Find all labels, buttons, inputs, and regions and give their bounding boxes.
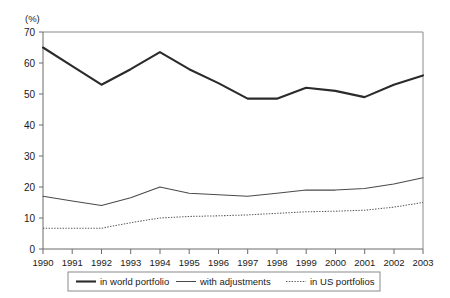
x-tick-label: 1990 (32, 257, 53, 268)
chart-container: (%) 70 60 50 40 30 20 10 0 1990 1991 (0, 0, 450, 298)
x-tick-label: 1992 (91, 257, 112, 268)
chart-legend: in world portfolio with adjustments in U… (68, 272, 380, 291)
x-tick-label: 1996 (208, 257, 229, 268)
x-tick-label: 1995 (179, 257, 200, 268)
y-tick-label: 20 (24, 182, 36, 193)
y-tick-label: 10 (24, 213, 36, 224)
y-axis-unit-label: (%) (25, 13, 40, 24)
x-tick-label: 1991 (62, 257, 83, 268)
x-tick-label: 1999 (296, 257, 317, 268)
y-tick-label: 70 (24, 27, 36, 38)
plot-frame (43, 32, 423, 249)
x-tick-label: 1997 (237, 257, 258, 268)
x-tick-label: 2003 (412, 257, 433, 268)
x-tick-label: 2000 (325, 257, 346, 268)
x-tick-label: 1993 (120, 257, 141, 268)
legend-label-with-adjustments: with adjustments (199, 276, 271, 287)
legend-label-in-world-portfolio: in world portfolio (100, 276, 169, 287)
line-chart: (%) 70 60 50 40 30 20 10 0 1990 1991 (0, 0, 450, 298)
legend-label-in-us-portfolios: in US portfolios (310, 276, 375, 287)
y-tick-label: 0 (29, 244, 35, 255)
x-tick-label: 2002 (383, 257, 404, 268)
series-line-in-world-portfolio (43, 48, 423, 99)
y-tick-label: 60 (24, 58, 36, 69)
x-axis: 1990 1991 1992 1993 1994 1995 1996 1997 … (32, 249, 433, 268)
y-tick-label: 40 (24, 120, 36, 131)
y-axis: (%) 70 60 50 40 30 20 10 0 (24, 13, 43, 255)
series-line-in-us-portfolios (43, 203, 423, 229)
x-tick-label: 1998 (266, 257, 287, 268)
series-line-with-adjustments (43, 178, 423, 206)
y-tick-label: 30 (24, 151, 36, 162)
y-tick-label: 50 (24, 89, 36, 100)
data-series-group (43, 48, 423, 229)
x-tick-label: 2001 (354, 257, 375, 268)
x-tick-label: 1994 (149, 257, 170, 268)
